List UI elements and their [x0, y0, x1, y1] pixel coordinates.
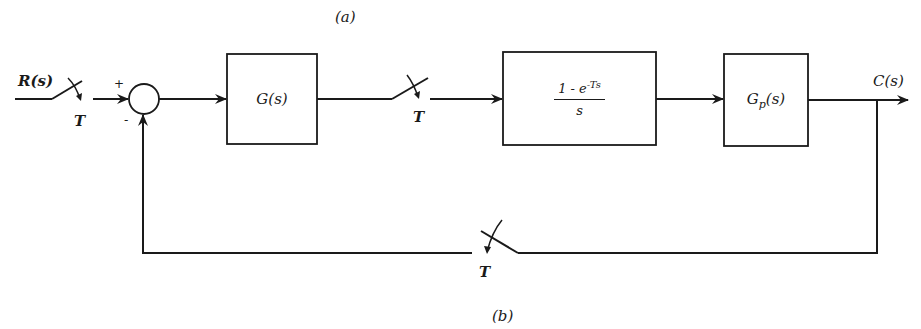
block-diagram-canvas [0, 0, 921, 329]
input-signal-label: R(s) [18, 74, 53, 89]
zoh-block-label: 1 - e-Ts s [503, 52, 656, 145]
zoh-transfer-function: 1 - e-Ts s [554, 79, 605, 118]
controller-block-label: G(s) [227, 54, 317, 144]
controller-transfer-function: G(s) [256, 90, 287, 108]
panel-label-b: (b) [492, 309, 513, 324]
controller-sampler-switch [392, 78, 428, 99]
panel-label-a: (a) [335, 10, 356, 25]
summing-junction [129, 84, 159, 114]
input-sampler-period: T [74, 114, 85, 129]
plant-block-label: Gp(s) [724, 54, 808, 146]
minus-sign: - [124, 114, 128, 126]
output-signal-label: C(s) [873, 74, 904, 89]
plus-sign: + [114, 78, 124, 90]
zoh-denominator: s [576, 100, 583, 118]
zoh-exponent: -Ts [587, 79, 601, 90]
feedback-sampler-period: T [479, 265, 490, 280]
plant-transfer-function: Gp(s) [747, 90, 785, 111]
zoh-numerator: 1 - e [558, 81, 587, 96]
controller-sampler-period: T [413, 110, 424, 125]
